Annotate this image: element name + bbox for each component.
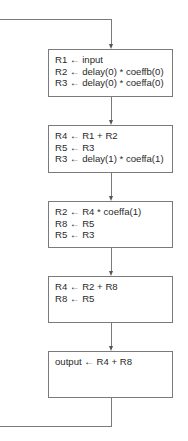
statement: R1 ← input (55, 54, 172, 66)
statement: R4 ← R2 + R8 (55, 281, 172, 293)
statement: R5 ← R3 (55, 229, 172, 241)
statement: R2 ← R4 * coeffa(1) (55, 206, 172, 218)
statement: R3 ← delay(0) * coeffa(0) (55, 77, 172, 89)
connector-1-2 (111, 97, 112, 121)
statement: R4 ← R1 + R2 (55, 130, 172, 142)
process-box-2: R4 ← R1 + R2 R5 ← R3 R3 ← delay(1) * coe… (48, 125, 173, 173)
connector-4-5 (111, 323, 112, 347)
statement: output ← R4 + R8 (55, 356, 172, 368)
loop-bottom-line (0, 426, 112, 427)
connector-2-3 (111, 173, 112, 197)
connector-3-4 (111, 248, 112, 272)
process-box-3: R2 ← R4 * coeffa(1) R8 ← R5 R5 ← R3 (48, 201, 173, 248)
process-box-5: output ← R4 + R8 (48, 351, 173, 398)
loop-bottom-riser (111, 398, 112, 427)
loop-top-line (0, 19, 112, 20)
connector-top (111, 19, 112, 45)
statement: R2 ← delay(0) * coeffb(0) (55, 66, 172, 78)
process-box-4: R4 ← R2 + R8 R8 ← R5 (48, 276, 173, 323)
statement: R3 ← delay(1) * coeffa(1) (55, 153, 172, 165)
statement: R8 ← R5 (55, 293, 172, 305)
statement: R8 ← R5 (55, 218, 172, 230)
statement: R5 ← R3 (55, 142, 172, 154)
process-box-1: R1 ← input R2 ← delay(0) * coeffb(0) R3 … (48, 49, 173, 97)
